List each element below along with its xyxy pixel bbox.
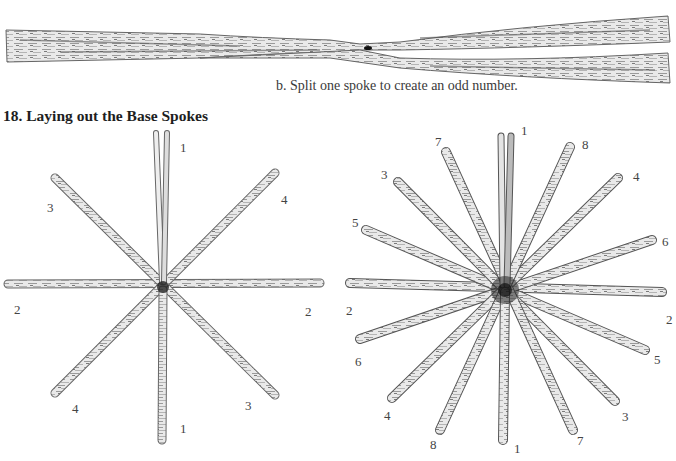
spoke-number-label: 5 xyxy=(352,216,359,229)
spoke-number-label: 6 xyxy=(662,235,669,248)
base-spokes-8-diagram xyxy=(350,136,662,440)
spoke-number-label: 3 xyxy=(381,168,388,181)
spoke-number-label: 2 xyxy=(666,313,673,326)
spoke-number-label: 5 xyxy=(654,353,661,366)
spoke-number-label: 3 xyxy=(622,410,629,423)
spoke-number-label: 1 xyxy=(514,442,521,455)
section-heading: 18. Laying out the Base Spokes xyxy=(3,107,208,125)
spoke-number-label: 8 xyxy=(582,138,589,151)
spoke-number-label: 4 xyxy=(281,193,288,206)
spoke-number-label: 4 xyxy=(72,402,79,415)
spoke-number-label: 2 xyxy=(346,304,353,317)
spoke-number-label: 6 xyxy=(355,355,362,368)
spoke-number-label: 2 xyxy=(14,303,21,316)
illustration xyxy=(0,0,676,461)
spoke-number-label: 4 xyxy=(633,170,640,183)
spoke-number-label: 1 xyxy=(521,124,528,137)
spoke-number-label: 7 xyxy=(577,434,584,447)
spoke-number-label: 8 xyxy=(430,438,437,451)
spoke-number-label: 7 xyxy=(435,135,442,148)
spoke-number-label: 4 xyxy=(384,409,391,422)
spoke-number-label: 2 xyxy=(305,305,312,318)
figure-b-caption: b. Split one spoke to create an odd numb… xyxy=(276,78,518,94)
spoke-number-label: 1 xyxy=(180,422,187,435)
spoke-number-label: 3 xyxy=(245,399,252,412)
base-spokes-4-diagram xyxy=(8,133,320,440)
spoke-number-label: 1 xyxy=(180,141,187,154)
spoke-number-label: 3 xyxy=(47,201,54,214)
split-spoke-figure xyxy=(6,16,670,83)
